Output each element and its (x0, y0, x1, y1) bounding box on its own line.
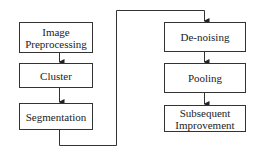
box-label: Cluster (40, 70, 72, 82)
box-label: Image Preprocessing (20, 26, 92, 50)
box-label: Subsequent Improvement (165, 107, 245, 131)
box-pooling: Pooling (164, 63, 246, 93)
box-segmentation: Segmentation (19, 103, 93, 130)
box-de-noising: De-noising (164, 22, 246, 52)
box-subsequent-improvement: Subsequent Improvement (164, 105, 246, 132)
box-image-preprocessing: Image Preprocessing (19, 22, 93, 53)
box-label: Pooling (188, 72, 222, 84)
box-cluster: Cluster (19, 63, 93, 88)
box-label: De-noising (181, 31, 230, 43)
box-label: Segmentation (26, 111, 87, 123)
